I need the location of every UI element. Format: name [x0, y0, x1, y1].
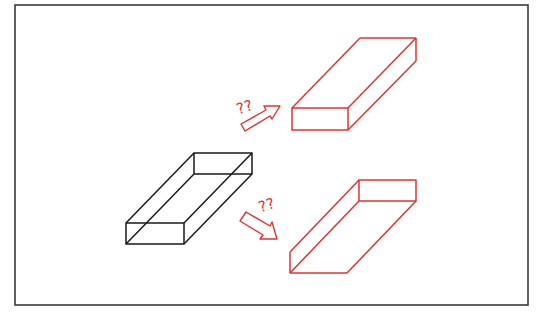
diagram-frame — [15, 5, 528, 305]
original-wireframe-box — [126, 153, 252, 244]
ambiguous-figure-diagram: ?? ?? — [0, 0, 539, 320]
arrow-down-right-icon — [240, 212, 277, 239]
solid-box-candidate — [292, 38, 416, 130]
lower-question-marks: ?? — [256, 194, 277, 216]
upper-question-marks: ?? — [234, 96, 255, 118]
open-tray-candidate — [290, 180, 416, 273]
